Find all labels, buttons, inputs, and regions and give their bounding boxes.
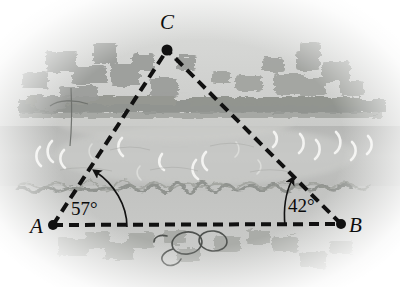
angle-label-A: 57° xyxy=(71,199,98,218)
vertex-dot-B xyxy=(336,219,346,229)
vertex-dot-A xyxy=(48,220,58,230)
vertex-dot-C xyxy=(162,45,173,56)
vertex-label-C: C xyxy=(160,12,174,33)
segment-AB xyxy=(53,224,341,225)
vertex-label-B: B xyxy=(349,215,362,236)
angle-arc-A xyxy=(96,172,127,227)
figure-canvas: A B C 57° 42° xyxy=(0,0,400,287)
geometry-layer xyxy=(0,0,400,287)
landscape-scene: A B C 57° 42° xyxy=(0,0,400,287)
angle-label-B: 42° xyxy=(288,196,315,215)
segment-BC xyxy=(167,50,341,224)
vertex-label-A: A xyxy=(30,216,43,237)
